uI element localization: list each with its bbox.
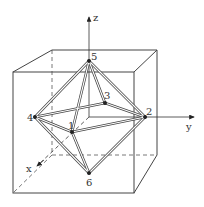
vertex-label-4: 4 xyxy=(27,112,33,123)
vertex-label-1: 1 xyxy=(68,120,74,131)
z-axis-label: z xyxy=(93,12,98,23)
cube-hidden-edges xyxy=(13,50,157,193)
y-axis-label: y xyxy=(185,121,192,132)
vertex-label-2: 2 xyxy=(146,106,152,117)
diagram-canvas: z y x 5 6 4 2 1 3 xyxy=(0,0,204,207)
vertex-label-6: 6 xyxy=(86,177,92,188)
vertex-label-3: 3 xyxy=(104,90,110,101)
octahedron-cube-diagram: z y x 5 6 4 2 1 3 xyxy=(0,0,204,207)
x-axis-arrow xyxy=(37,160,44,166)
vertex-label-5: 5 xyxy=(91,51,97,62)
x-axis-label: x xyxy=(26,163,32,174)
